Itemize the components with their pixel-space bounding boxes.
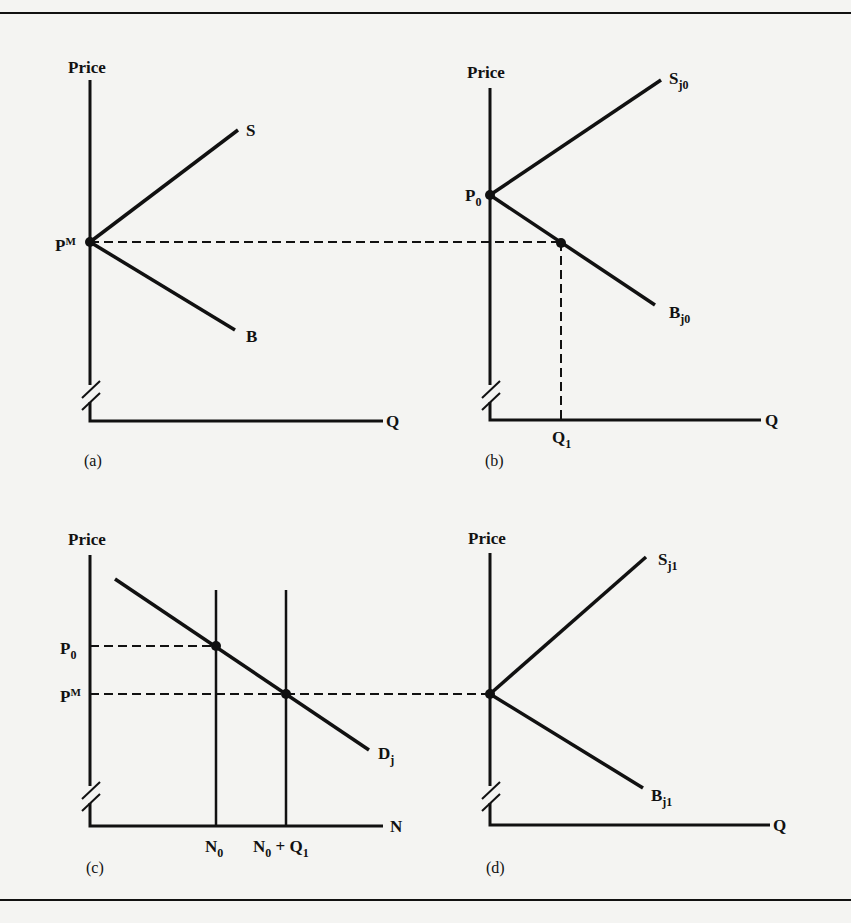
- supply-curve-S: [90, 130, 238, 242]
- point-label-PM: PM: [55, 235, 76, 255]
- panel-caption: (d): [486, 859, 505, 877]
- curve-label-B: B: [246, 327, 257, 346]
- curve-label-S: S: [246, 121, 255, 140]
- equilibrium-point: [85, 237, 95, 247]
- intersection-point: [556, 238, 566, 248]
- x-axis-label: Q: [773, 816, 786, 835]
- demand-curve-Dj: [115, 579, 369, 750]
- point-label-P0: P0: [60, 639, 76, 662]
- panel-d: Price Q Sj1 Bj1 (d): [425, 529, 786, 877]
- panel-caption: (a): [84, 452, 102, 470]
- curve-label-Bj0: Bj0: [669, 303, 690, 326]
- curve-label-Dj: Dj: [378, 744, 394, 767]
- panel-caption: (b): [485, 452, 504, 470]
- panel-a: Price Q S B PM (a): [55, 58, 425, 470]
- x-axis: [490, 803, 770, 825]
- x-axis-label: Q: [765, 411, 778, 430]
- x-mark-N0: N0: [205, 837, 223, 860]
- supply-curve-Sj1: [490, 557, 646, 694]
- supply-curve-Sj0: [490, 80, 661, 195]
- y-axis-label: Price: [68, 58, 106, 77]
- curve-label-Bj1: Bj1: [651, 786, 672, 809]
- p0-point: [211, 641, 221, 651]
- x-axis-label: Q: [386, 412, 399, 431]
- curve-label-Sj1: Sj1: [658, 550, 677, 573]
- panel-caption: (c): [86, 859, 104, 877]
- p0-point: [485, 190, 495, 200]
- figure-canvas: Price Q S B PM (a) Price Q Sj0 Bj0: [0, 0, 851, 923]
- demand-curve-B: [90, 242, 235, 330]
- point-label-P0: P0: [465, 186, 481, 209]
- y-axis-label: Price: [468, 529, 506, 548]
- panel-b: Price Q Sj0 Bj0 P0 Q1 (b): [425, 63, 778, 470]
- equilibrium-point: [485, 689, 495, 699]
- x-axis: [490, 402, 761, 420]
- pm-point: [281, 689, 291, 699]
- y-axis-label: Price: [467, 63, 505, 82]
- x-mark-N0-plus-Q1: N0 + Q1: [253, 837, 309, 860]
- x-axis: [90, 803, 383, 826]
- x-axis-label: N: [390, 817, 403, 836]
- point-label-PM: PM: [60, 686, 81, 706]
- x-mark-Q1: Q1: [552, 428, 571, 451]
- curve-label-Sj0: Sj0: [669, 69, 688, 92]
- x-axis: [90, 402, 383, 421]
- demand-curve-Bj1: [490, 694, 643, 788]
- demand-curve-Bj0: [490, 195, 655, 305]
- panel-c: Price N Dj P0 PM N0 N0 + Q1 (c): [60, 530, 425, 877]
- y-axis-label: Price: [68, 530, 106, 549]
